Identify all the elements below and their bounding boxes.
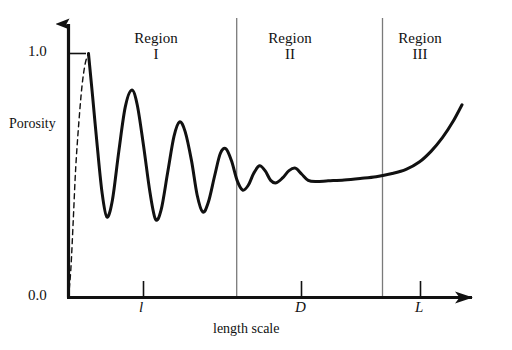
x-tick-label-l: l xyxy=(139,300,143,316)
region-3-name: Region xyxy=(398,30,441,46)
region-1-numeral: I xyxy=(120,47,192,63)
region-label-3: Region III xyxy=(384,31,456,63)
x-tick-label-d: D xyxy=(295,300,306,316)
x-tick-label-L: L xyxy=(415,300,423,316)
region-label-1: Region I xyxy=(120,31,192,63)
region-3-numeral: III xyxy=(384,47,456,63)
y-tick-label-1: 1.0 xyxy=(28,44,47,60)
region-1-name: Region xyxy=(134,30,177,46)
porosity-length-scale-figure: 1.0 0.0 Porosity l D L length scale Regi… xyxy=(0,0,512,350)
region-label-2: Region II xyxy=(254,31,326,63)
region-2-name: Region xyxy=(268,30,311,46)
y-tick-label-0: 0.0 xyxy=(28,288,47,304)
y-axis-label: Porosity xyxy=(9,117,56,132)
porosity-curve xyxy=(88,54,462,221)
region-2-numeral: II xyxy=(254,47,326,63)
x-axis-label: length scale xyxy=(213,322,279,337)
porosity-dashed-curve xyxy=(69,54,89,298)
